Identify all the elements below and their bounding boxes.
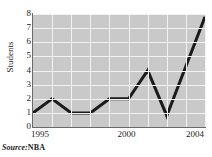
gridline-vertical [129,14,130,127]
x-tick-label: 1995 [31,129,49,139]
gridline-horizontal [33,56,205,57]
gridline-horizontal [33,113,205,114]
y-tick-label: 0 [5,122,31,131]
y-tick-label: 5 [5,51,31,60]
y-tick-label: 1 [5,108,31,117]
source-note: Source:NBA [2,143,45,152]
y-tick-label: 7 [5,23,31,32]
x-tick-label: 2004 [186,129,204,139]
y-tick-label: 2 [5,94,31,103]
gridline-vertical [167,14,168,127]
chart-figure: Students 012345678 199520002004 Source:N… [0,0,212,157]
gridline-horizontal [33,99,205,100]
y-tick-label: 8 [5,9,31,18]
y-tick-label: 6 [5,37,31,46]
gridline-vertical [52,14,53,127]
gridline-vertical [205,14,206,127]
gridline-horizontal [33,42,205,43]
gridline-vertical [186,14,187,127]
gridline-vertical [90,14,91,127]
gridline-horizontal [33,28,205,29]
gridline-horizontal [33,85,205,86]
x-tick-label: 2000 [118,129,136,139]
y-tick-label: 4 [5,66,31,75]
gridline-horizontal [33,71,205,72]
chart-title [17,0,195,4]
y-tick-label: 3 [5,80,31,89]
gridline-horizontal [33,14,205,15]
x-axis-line [32,127,206,128]
source-label: Source: [2,143,28,152]
gridline-vertical [148,14,149,127]
gridline-vertical [71,14,72,127]
y-axis-tick-labels: 012345678 [0,0,31,157]
plot-area [33,14,205,127]
source-value: NBA [28,143,46,152]
gridline-vertical [109,14,110,127]
